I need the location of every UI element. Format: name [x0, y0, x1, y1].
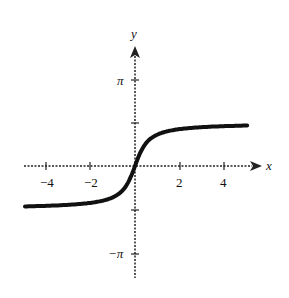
x-axis-label: x — [265, 158, 272, 173]
x-tick-label: −4 — [40, 175, 54, 190]
y-axis-label: y — [129, 26, 137, 41]
x-tick-label: 4 — [220, 175, 227, 190]
y-tick-label-pi: π — [117, 73, 124, 88]
chart: x y −4 −2 2 4 π −π — [0, 0, 289, 298]
y-tick-label-neg-pi: −π — [108, 246, 124, 261]
x-tick-label: 2 — [176, 175, 183, 190]
x-tick-label: −2 — [84, 175, 98, 190]
